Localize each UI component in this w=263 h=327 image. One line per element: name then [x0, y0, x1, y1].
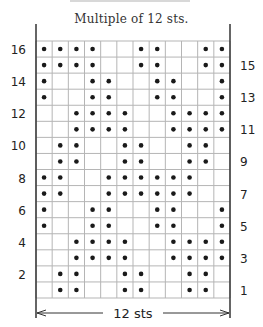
purl-dot — [106, 223, 111, 228]
purl-dot — [187, 191, 192, 196]
purl-dot — [203, 239, 208, 244]
purl-dot — [42, 223, 47, 228]
row-label-right: 13 — [240, 91, 255, 105]
row-label-right: 9 — [240, 155, 248, 169]
purl-dot — [171, 191, 176, 196]
purl-dot — [171, 175, 176, 180]
purl-dot — [187, 288, 192, 293]
purl-dot — [203, 111, 208, 116]
row-label-right: 11 — [240, 123, 255, 137]
purl-dot — [90, 127, 95, 132]
purl-dot — [220, 79, 225, 84]
purl-dot — [220, 47, 225, 52]
width-indicator: 12 sts — [37, 306, 229, 321]
purl-dot — [42, 207, 47, 212]
purl-dot — [203, 127, 208, 132]
purl-dot — [74, 159, 79, 164]
purl-dot — [106, 111, 111, 116]
row-label-left: 4 — [18, 236, 26, 250]
purl-dot — [139, 288, 144, 293]
purl-dot — [58, 159, 63, 164]
purl-dot — [90, 63, 95, 68]
purl-dot — [42, 79, 47, 84]
purl-dot — [203, 143, 208, 148]
purl-dot — [74, 239, 79, 244]
purl-dot — [74, 256, 79, 261]
purl-dot — [123, 143, 128, 148]
purl-dot — [203, 159, 208, 164]
purl-dot — [58, 63, 63, 68]
purl-dot — [106, 256, 111, 261]
purl-dot — [123, 159, 128, 164]
purl-dot — [90, 256, 95, 261]
purl-dot — [90, 239, 95, 244]
purl-dot — [139, 143, 144, 148]
purl-dot — [123, 256, 128, 261]
purl-dot — [171, 239, 176, 244]
purl-dot — [123, 288, 128, 293]
row-label-right: 5 — [240, 220, 248, 234]
purl-dot — [220, 127, 225, 132]
purl-dot — [220, 95, 225, 100]
row-label-right: 3 — [240, 252, 248, 266]
purl-dot — [187, 175, 192, 180]
purl-dot — [42, 95, 47, 100]
purl-dot — [123, 239, 128, 244]
purl-dot — [90, 223, 95, 228]
chart-grid — [36, 41, 230, 298]
row-label-right: 15 — [240, 59, 255, 73]
purl-dot — [42, 175, 47, 180]
row-label-left: 2 — [18, 268, 26, 282]
purl-dot — [203, 47, 208, 52]
row-label-left: 8 — [18, 172, 26, 186]
purl-dot — [74, 143, 79, 148]
purl-dot — [74, 47, 79, 52]
purl-dot — [58, 288, 63, 293]
purl-dot — [155, 191, 160, 196]
row-label-right: 1 — [240, 284, 248, 298]
purl-dot — [74, 272, 79, 277]
purl-dot — [106, 95, 111, 100]
purl-dot — [155, 95, 160, 100]
purl-dot — [187, 239, 192, 244]
purl-dot — [155, 47, 160, 52]
purl-dot — [74, 127, 79, 132]
purl-dot — [58, 47, 63, 52]
purl-dot — [139, 175, 144, 180]
purl-dot — [90, 79, 95, 84]
purl-dot — [155, 223, 160, 228]
width-label: 12 sts — [113, 306, 153, 321]
purl-dot — [42, 191, 47, 196]
purl-dot — [203, 288, 208, 293]
purl-dot — [187, 159, 192, 164]
purl-dot — [90, 95, 95, 100]
row-label-right: 7 — [240, 188, 248, 202]
purl-dot — [187, 111, 192, 116]
purl-dot — [155, 79, 160, 84]
purl-dot — [155, 175, 160, 180]
purl-dot — [106, 79, 111, 84]
purl-dot — [171, 256, 176, 261]
purl-dot — [220, 63, 225, 68]
purl-dot — [42, 47, 47, 52]
purl-dot — [171, 79, 176, 84]
purl-dot — [220, 111, 225, 116]
purl-dot — [203, 63, 208, 68]
purl-dot — [187, 127, 192, 132]
row-label-left: 16 — [11, 43, 26, 57]
purl-dot — [106, 175, 111, 180]
purl-dot — [187, 272, 192, 277]
purl-dot — [123, 175, 128, 180]
purl-dot — [58, 272, 63, 277]
purl-dot — [171, 95, 176, 100]
knitting-chart: 16141210864215131197531 12 sts — [0, 0, 263, 327]
purl-dot — [139, 159, 144, 164]
purl-dot — [106, 207, 111, 212]
purl-dot — [139, 63, 144, 68]
purl-dot — [90, 47, 95, 52]
purl-dot — [171, 223, 176, 228]
purl-dot — [139, 47, 144, 52]
row-label-left: 10 — [11, 139, 26, 153]
purl-dot — [106, 127, 111, 132]
purl-dot — [171, 111, 176, 116]
